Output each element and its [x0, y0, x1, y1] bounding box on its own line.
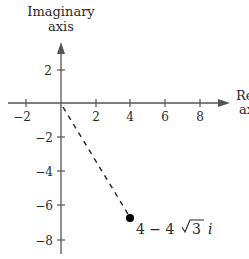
- point-label: 4 − 4 3 i: [136, 220, 212, 237]
- x-tick-label: 2: [92, 110, 100, 124]
- y-tick-label: −6: [35, 199, 53, 213]
- y-axis-title-line2: axis: [48, 19, 74, 34]
- y-tick-label: −2: [35, 131, 53, 145]
- point-label-suffix: i: [208, 221, 212, 237]
- x-tick-label: 4: [126, 110, 134, 124]
- complex-point-marker: [126, 214, 134, 222]
- arrow-right-icon: [218, 99, 230, 107]
- x-tick-label: 8: [196, 110, 204, 124]
- point-label-radicand: 3: [192, 221, 201, 237]
- arrow-up-icon: [57, 42, 65, 54]
- point-label-prefix: 4 − 4: [136, 221, 175, 237]
- imaginary-axis: [57, 42, 65, 254]
- y-tick-label: −4: [35, 165, 53, 179]
- complex-plane-diagram: Imaginary axis Re ax −2 2 4 6 8 2 −2 −4 …: [0, 0, 249, 259]
- x-tick-label: −2: [13, 110, 31, 124]
- y-tick-label: −8: [35, 234, 53, 248]
- real-axis: [8, 99, 230, 107]
- y-axis-title-line1: Imaginary: [27, 4, 95, 19]
- y-tick-labels: 2 −2 −4 −6 −8: [35, 64, 53, 248]
- x-axis-title-line1: Re: [236, 88, 249, 103]
- x-tick-label: 6: [161, 110, 169, 124]
- x-tick-labels: −2 2 4 6 8: [13, 110, 204, 124]
- x-axis-title-line2: ax: [239, 102, 249, 117]
- y-tick-label: 2: [44, 64, 52, 78]
